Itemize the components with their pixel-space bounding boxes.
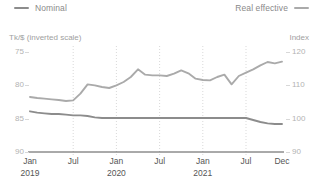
x-axis-tick-year: 2020 bbox=[107, 168, 126, 178]
y-axis-tick-left: 80 bbox=[4, 80, 24, 89]
y-axis-tick-dash bbox=[25, 119, 29, 120]
plot-area: 7580859012011010090Jan2019JulJan2020JulJ… bbox=[0, 0, 317, 187]
x-axis-tick: Jul bbox=[241, 156, 252, 166]
x-axis-tick: Dec bbox=[274, 156, 289, 166]
y-axis-tick-dash bbox=[25, 52, 29, 53]
y-axis-tick-left: 90 bbox=[4, 147, 24, 156]
y-axis-tick-right: 120 bbox=[292, 47, 316, 56]
y-axis-tick-dash bbox=[286, 52, 290, 53]
y-axis-tick-right: 110 bbox=[292, 80, 316, 89]
series-line-nominal bbox=[30, 111, 282, 124]
x-axis-tick: Jan2019 bbox=[21, 156, 40, 178]
y-axis-tick-left: 75 bbox=[4, 47, 24, 56]
x-axis-tick-year: 2019 bbox=[21, 168, 40, 178]
x-axis-tick: Jan2021 bbox=[193, 156, 212, 178]
x-axis-tick-month: Jul bbox=[241, 156, 252, 166]
x-axis-tick-year: 2021 bbox=[193, 168, 212, 178]
chart-figure: Nominal Real effective Tk/$ (inverted sc… bbox=[0, 0, 317, 187]
y-axis-tick-dash bbox=[25, 85, 29, 86]
y-axis-tick-dash bbox=[286, 119, 290, 120]
series-line-real-effective bbox=[30, 62, 282, 101]
x-axis-tick: Jul bbox=[154, 156, 165, 166]
y-axis-tick-dash bbox=[286, 152, 290, 153]
y-axis-tick-dash bbox=[25, 152, 29, 153]
x-axis-tick-month: Jan bbox=[110, 156, 124, 166]
y-axis-tick-left: 85 bbox=[4, 114, 24, 123]
x-axis-tick: Jul bbox=[68, 156, 79, 166]
x-axis-tick-month: Jul bbox=[68, 156, 79, 166]
x-axis-tick-month: Dec bbox=[274, 156, 289, 166]
x-axis-tick-month: Jan bbox=[23, 156, 37, 166]
y-axis-tick-right: 90 bbox=[292, 147, 316, 156]
x-axis-tick-month: Jan bbox=[196, 156, 210, 166]
y-axis-tick-dash bbox=[286, 85, 290, 86]
x-axis-tick-month: Jul bbox=[154, 156, 165, 166]
x-axis-tick: Jan2020 bbox=[107, 156, 126, 178]
y-axis-tick-right: 100 bbox=[292, 114, 316, 123]
